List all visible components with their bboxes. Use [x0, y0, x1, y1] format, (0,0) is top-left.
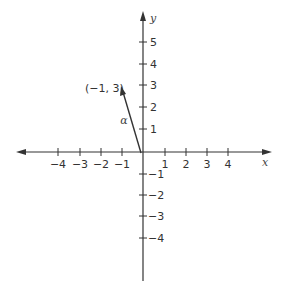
y-tick-label: −2: [148, 189, 164, 202]
x-tick-label: −1: [114, 158, 130, 171]
x-tick-label: 3: [204, 158, 211, 171]
y-axis-label: y: [149, 12, 157, 25]
y-tick-label: 5: [150, 36, 157, 49]
x-tick-label: 4: [225, 158, 232, 171]
y-tick-label: 3: [150, 79, 157, 92]
vector-alpha: α (−1, 3): [85, 82, 141, 153]
y-tick-label: 1: [150, 123, 157, 136]
x-axis-left-arrow-icon: [16, 149, 26, 155]
y-tick-label: 4: [150, 58, 157, 71]
x-axis-right-arrow-icon: [262, 149, 272, 155]
y-tick-label: 2: [150, 101, 157, 114]
vector-endpoint-label: (−1, 3): [85, 82, 124, 95]
x-tick-label: −4: [50, 158, 66, 171]
y-tick-label: −3: [148, 210, 164, 223]
x-axis: −4 −3 −2 −1 1 2 3 4 x: [16, 148, 272, 171]
x-tick-label: −3: [72, 158, 88, 171]
x-tick-label: −2: [93, 158, 109, 171]
y-axis-up-arrow-icon: [140, 11, 146, 21]
x-tick-label: 2: [183, 158, 190, 171]
y-tick-label: −1: [148, 168, 164, 181]
vector-name-label: α: [120, 114, 128, 127]
coordinate-plane: −4 −3 −2 −1 1 2 3 4 x 5 4 3 2 1 −1 −2 −3…: [0, 0, 286, 293]
y-axis: 5 4 3 2 1 −1 −2 −3 −4 y: [139, 11, 164, 281]
x-axis-label: x: [262, 156, 269, 169]
y-tick-label: −4: [148, 232, 164, 245]
